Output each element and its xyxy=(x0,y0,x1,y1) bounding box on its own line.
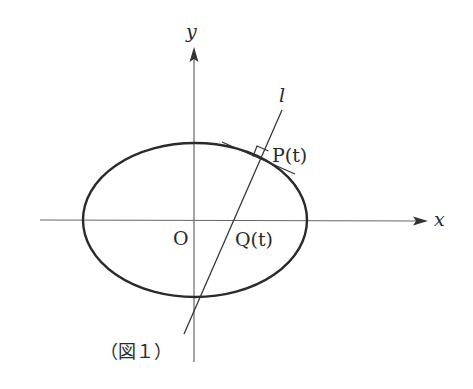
ellipse-diagram xyxy=(0,0,473,389)
line-l-label: l xyxy=(279,86,285,105)
point-q-label: Q(t) xyxy=(235,230,273,249)
point-p-text: P(t) xyxy=(272,144,307,166)
point-p-label: P(t) xyxy=(272,146,307,165)
origin-label: O xyxy=(173,229,189,248)
y-axis-label: y xyxy=(186,22,197,41)
figure-caption: （図１） xyxy=(100,343,172,361)
point-q-text: Q(t) xyxy=(235,228,273,250)
x-axis-label: x xyxy=(434,210,445,229)
x-axis xyxy=(40,220,424,221)
